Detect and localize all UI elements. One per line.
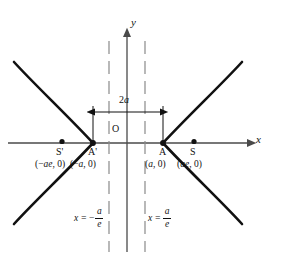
coord-s-close: , 0) — [189, 159, 202, 169]
coord-s-prime-close: , 0) — [53, 159, 66, 169]
label-focus-s: S — [190, 147, 196, 157]
right-directrix-equation: x = a e — [148, 207, 171, 229]
coord-a-prime-close: , 0) — [83, 159, 96, 169]
left-directrix-sign: − — [89, 213, 94, 223]
origin-label: O — [112, 124, 119, 134]
left-directrix-equation: x = − a e — [74, 207, 103, 229]
left-directrix-denominator: e — [96, 220, 102, 230]
left-directrix-numerator: a — [96, 207, 103, 217]
focus-point-s — [191, 139, 196, 144]
dimension-label-italic: a — [124, 94, 129, 105]
coord-a-close: , 0) — [153, 159, 166, 169]
focus-point-s-prime — [59, 139, 64, 144]
label-vertex-a-prime: A' — [88, 147, 97, 157]
coord-vertex-a-prime: (−a, 0) — [70, 160, 96, 170]
hyperbola-figure: x y O 2a S' (−ae, 0) A' (−a, 0) A (a, 0)… — [0, 0, 286, 271]
y-axis-label: y — [131, 17, 136, 28]
figure-canvas — [0, 0, 286, 271]
right-directrix-lhs: x = — [148, 213, 161, 223]
coord-focus-s-prime: (−ae, 0) — [35, 160, 65, 170]
x-axis-label: x — [256, 134, 261, 145]
right-directrix-denominator: e — [164, 220, 170, 230]
left-directrix-fraction: a e — [95, 207, 103, 229]
coord-s-prime-italic: ae — [44, 159, 53, 169]
coord-vertex-a: (a, 0) — [145, 160, 166, 170]
left-directrix-lhs: x = — [74, 213, 87, 223]
coord-s-italic: ae — [180, 159, 189, 169]
right-directrix-fraction: a e — [163, 207, 171, 229]
coord-s-prime-open: (− — [35, 159, 44, 169]
right-directrix-numerator: a — [164, 207, 171, 217]
coord-focus-s: (ae, 0) — [177, 160, 202, 170]
label-vertex-a: A — [159, 147, 166, 157]
label-focus-s-prime: S' — [56, 147, 63, 157]
dimension-label-2a: 2a — [119, 95, 129, 105]
coord-a-prime-open: (− — [70, 159, 79, 169]
